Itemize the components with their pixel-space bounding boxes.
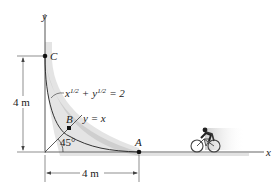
vertical-dim-arrow-bottom: [21, 146, 24, 151]
horizontal-dim-label: 4 m: [82, 167, 99, 179]
horizontal-dim-arrow-right: [133, 171, 138, 174]
point-c-label: C: [50, 50, 58, 62]
point-b-label: B: [66, 113, 73, 125]
horizontal-dim-arrow-left: [46, 171, 51, 174]
line-equation-label: y = x: [82, 112, 106, 124]
x-axis-label: x: [265, 146, 271, 158]
y-axis-label: y: [41, 10, 47, 22]
point-a-label: A: [134, 136, 142, 148]
kinematics-diagram: y x 45° C B y = x A x1/2+y1/2= 2 4 m 4 m: [0, 0, 275, 189]
angle-label: 45°: [60, 136, 75, 148]
vertical-dim-arrow-top: [21, 57, 24, 62]
vertical-dim-label: 4 m: [13, 96, 30, 108]
curve-equation-label: x1/2+y1/2= 2: [64, 87, 125, 99]
point-b: [67, 126, 71, 130]
cyclist-icon: [191, 128, 245, 152]
ground-shade: [139, 153, 249, 156]
point-a: [137, 150, 142, 155]
